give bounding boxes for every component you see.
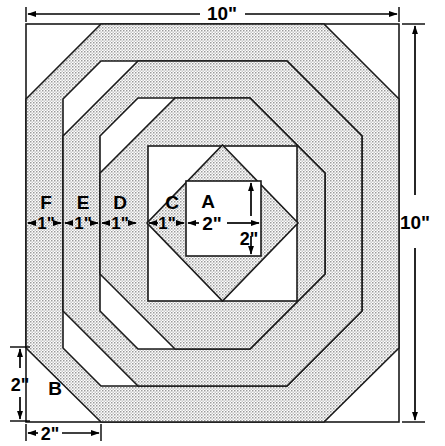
dimension-top: 10" [26,3,399,24]
piece-label-c: C [165,192,179,213]
dimension-d-label: 1" [111,214,129,233]
dimension-e-label: 1" [74,214,92,233]
piece-label-b: B [48,378,62,399]
piece-label-f: F [40,192,52,213]
dimension-a-height-label: 2" [240,229,259,249]
dimension-left-lower-label: 2" [11,375,30,395]
dimension-right: 10" [400,24,430,422]
dimension-a-width-label: 2" [202,213,222,234]
piece-label-e: E [77,192,90,213]
diagram-canvas: 10" 10" 2" 2" [0,0,445,446]
piece-label-a: A [201,191,215,212]
dimension-right-label: 10" [400,212,430,233]
dimension-bottom-left: 2" [26,424,101,444]
quilt-block-diagram: 10" 10" 2" 2" [0,0,445,446]
dimension-top-label: 10" [207,3,237,24]
dimension-c-label: 1" [158,214,176,233]
dimension-bottom-left-label: 2" [41,424,60,444]
dimension-f-label: 1" [37,214,55,233]
piece-label-d: D [113,192,127,213]
